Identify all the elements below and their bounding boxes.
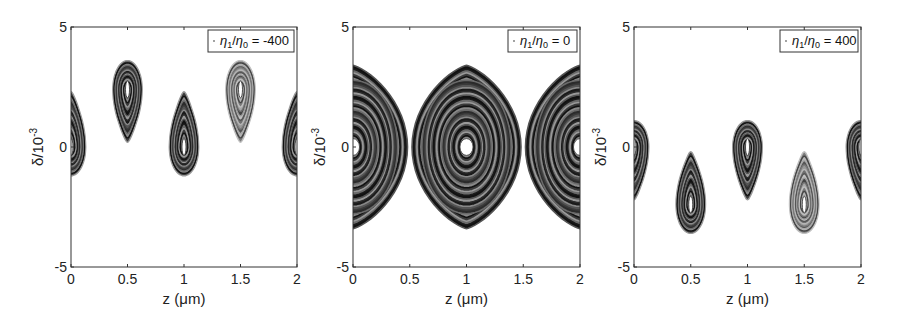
legend-marker-icon	[785, 40, 787, 42]
y-axis-label: δ/10-3	[591, 128, 609, 167]
x-tick-label: 1	[463, 271, 471, 287]
x-tick-label: 0.5	[400, 271, 420, 287]
x-tick-label: 2	[857, 271, 865, 287]
island	[226, 61, 255, 143]
figure: 00.511.52 -505 z (μm) δ/10-3 η1/η0 = -40…	[0, 0, 897, 325]
legend-marker-icon	[213, 40, 215, 42]
x-tick-label: 0	[67, 271, 75, 287]
legend: η1/η0 = 0	[508, 30, 577, 52]
y-tick-label: 5	[341, 19, 349, 35]
x-tick-label: 2	[576, 271, 584, 287]
y-axis-label: δ/10-3	[310, 128, 328, 167]
island	[113, 61, 142, 143]
island	[790, 152, 820, 234]
x-axis-label: z (μm)	[726, 290, 769, 307]
legend: η1/η0 = -400	[208, 30, 294, 52]
island	[733, 121, 763, 200]
x-tick-label: 2	[293, 271, 301, 287]
y-tick-label: 0	[59, 139, 67, 155]
y-tick-label: 0	[341, 139, 349, 155]
x-tick-label: 1.5	[795, 271, 815, 287]
phase-space-contours	[619, 121, 876, 234]
x-tick-label: 1.5	[231, 271, 251, 287]
panel-eta-minus-400: 00.511.52 -505 z (μm) δ/10-3 η1/η0 = -40…	[28, 19, 312, 307]
x-tick-label: 1	[180, 271, 188, 287]
island	[412, 65, 521, 228]
x-tick-label: 1.5	[514, 271, 534, 287]
panel-eta-zero: 00.511.52 -505 z (μm) δ/10-3 η1/η0 = 0	[299, 19, 635, 307]
legend-marker-icon	[513, 40, 515, 42]
y-tick-label: -5	[618, 259, 631, 275]
island	[169, 92, 198, 176]
y-tick-label: -5	[337, 259, 350, 275]
y-axis-label: δ/10-3	[28, 128, 46, 167]
x-axis-label: z (μm)	[445, 290, 488, 307]
legend: η1/η0 = 400	[780, 30, 858, 52]
x-tick-label: 0	[349, 271, 357, 287]
x-tick-label: 0	[630, 271, 638, 287]
y-tick-label: 5	[622, 19, 630, 35]
x-axis-label: z (μm)	[163, 290, 206, 307]
x-tick-label: 0.5	[118, 271, 138, 287]
x-tick-label: 0.5	[681, 271, 701, 287]
phase-space-contours	[56, 61, 311, 176]
island	[676, 152, 706, 234]
y-tick-label: -5	[55, 259, 68, 275]
y-tick-label: 5	[59, 19, 67, 35]
x-tick-label: 1	[744, 271, 752, 287]
y-tick-label: 0	[622, 139, 630, 155]
panel-eta-plus-400: 00.511.52 -505 z (μm) δ/10-3 η1/η0 = 400	[591, 19, 876, 307]
